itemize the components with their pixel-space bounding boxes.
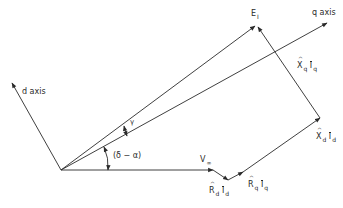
xd-symbol: X [316, 133, 321, 141]
xd-subscript: d [322, 136, 326, 143]
q-axis-label: q axis [312, 9, 336, 17]
rd-id-label: Rd Id [209, 187, 229, 195]
gamma-label: γ [130, 119, 134, 126]
rq-subscript: q [255, 184, 259, 191]
e-i-label: EI [251, 10, 259, 18]
id-symbol-2: I [329, 133, 331, 141]
e-subscript: I [257, 13, 259, 20]
q-axis-line [61, 23, 327, 170]
xq-subscript: q [303, 65, 307, 72]
e-symbol: E [251, 9, 256, 18]
v-subscript: ∞ [206, 159, 211, 166]
iq-symbol-2: I [310, 62, 312, 70]
d-axis-line [12, 83, 61, 170]
xq-iq-phasor [258, 27, 320, 118]
xq-symbol: X [297, 62, 302, 70]
id-subscript-2: d [332, 136, 336, 143]
e-i-phasor [61, 26, 255, 170]
v-inf-label: V∞ [200, 156, 211, 164]
delta-alpha-label: (δ − α) [113, 152, 141, 160]
iq-symbol: I [261, 181, 263, 189]
v-symbol: V [200, 155, 205, 164]
id-symbol: I [222, 187, 224, 195]
xd-id-label: Xd Id [316, 133, 336, 141]
rd-id-phasor [213, 170, 228, 180]
rd-subscript: d [216, 190, 220, 197]
rq-symbol: R [248, 181, 254, 189]
rd-symbol: R [209, 187, 215, 195]
iq-subscript: q [264, 184, 268, 191]
xd-id-phasor [243, 118, 320, 172]
iq-subscript-2: q [313, 65, 317, 72]
d-axis-label: d axis [22, 88, 46, 96]
phasor-diagram [0, 0, 343, 208]
delta-alpha-arc [104, 147, 108, 170]
xq-iq-label: Xq Iq [297, 62, 317, 70]
id-subscript: d [225, 190, 229, 197]
rq-iq-label: Rq Iq [248, 181, 268, 189]
rq-iq-phasor [228, 172, 243, 180]
